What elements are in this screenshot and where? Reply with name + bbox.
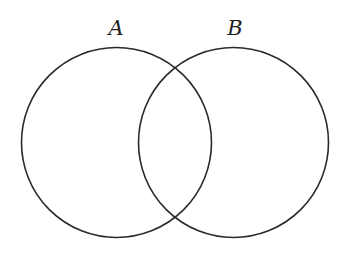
venn-svg: [0, 0, 344, 255]
set-a-circle: [22, 48, 212, 238]
set-a-label: A: [108, 18, 123, 39]
venn-diagram: A B: [0, 0, 344, 255]
set-b-label: B: [227, 18, 242, 39]
set-b-circle: [139, 48, 329, 238]
